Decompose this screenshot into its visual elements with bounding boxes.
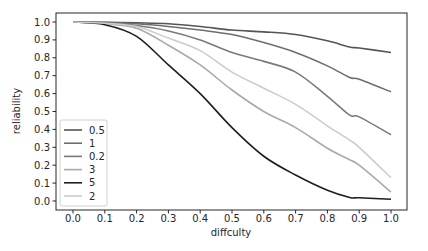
y-tick-label: 1.0 — [34, 17, 50, 28]
x-tick-label: 1.0 — [383, 213, 399, 224]
axes-frame — [56, 13, 407, 210]
x-tick-label: 0.6 — [256, 213, 272, 224]
y-tick-label: 0.6 — [34, 88, 50, 99]
y-tick-label: 0.0 — [34, 196, 50, 207]
reliability-chart: 0.00.10.20.30.40.50.60.70.80.91.0 0.00.1… — [0, 0, 428, 251]
x-tick-label: 0.3 — [160, 213, 176, 224]
y-tick-label: 0.1 — [34, 178, 50, 189]
x-tick-label: 0.8 — [319, 213, 335, 224]
legend-label: 5 — [89, 177, 95, 188]
series-line-3 — [73, 22, 391, 192]
y-tick-label: 0.3 — [34, 142, 50, 153]
legend: 0.510.2352 — [60, 120, 107, 206]
series-line-0.5 — [73, 22, 391, 52]
series-line-1 — [73, 22, 391, 92]
x-tick-label: 0.5 — [224, 213, 240, 224]
y-tick-label: 0.5 — [34, 106, 50, 117]
x-tick-label: 0.1 — [97, 213, 113, 224]
series-line-0.2 — [73, 22, 391, 135]
x-axis-ticks: 0.00.10.20.30.40.50.60.70.80.91.0 — [65, 210, 399, 224]
x-tick-label: 0.9 — [351, 213, 367, 224]
legend-label: 2 — [89, 191, 95, 202]
x-tick-label: 0.4 — [192, 213, 208, 224]
y-tick-label: 0.7 — [34, 70, 50, 81]
x-tick-label: 0.0 — [65, 213, 81, 224]
y-axis-ticks: 0.00.10.20.30.40.50.60.70.80.91.0 — [34, 17, 56, 207]
y-tick-label: 0.2 — [34, 160, 50, 171]
legend-label: 0.5 — [89, 125, 105, 136]
y-axis-label: reliability — [11, 88, 22, 134]
y-tick-label: 0.4 — [34, 124, 50, 135]
legend-label: 0.2 — [89, 151, 105, 162]
x-axis-label: diffculty — [211, 227, 252, 238]
plot-lines — [73, 22, 391, 199]
y-tick-label: 0.9 — [34, 34, 50, 45]
x-tick-label: 0.7 — [288, 213, 304, 224]
legend-label: 3 — [89, 164, 95, 175]
x-tick-label: 0.2 — [129, 213, 145, 224]
legend-label: 1 — [89, 138, 95, 149]
y-tick-label: 0.8 — [34, 52, 50, 63]
